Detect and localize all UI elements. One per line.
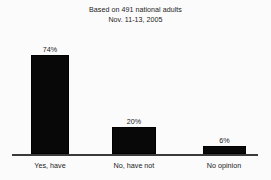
category-label: No opinion (184, 161, 264, 171)
bar-value-label: 74% (31, 45, 69, 54)
bar (31, 55, 69, 154)
bar-chart: Based on 491 national adults Nov. 11-13,… (0, 0, 271, 180)
category-label: No, have not (94, 161, 174, 171)
bar-value-label: 6% (203, 136, 246, 145)
category-label: Yes, have (10, 161, 90, 171)
x-axis-line (12, 154, 258, 156)
plot-area: 74% 20% 6% Yes, have No, have not No opi… (0, 0, 271, 180)
bar (203, 146, 246, 154)
bar (112, 127, 156, 154)
bar-value-label: 20% (112, 117, 156, 126)
